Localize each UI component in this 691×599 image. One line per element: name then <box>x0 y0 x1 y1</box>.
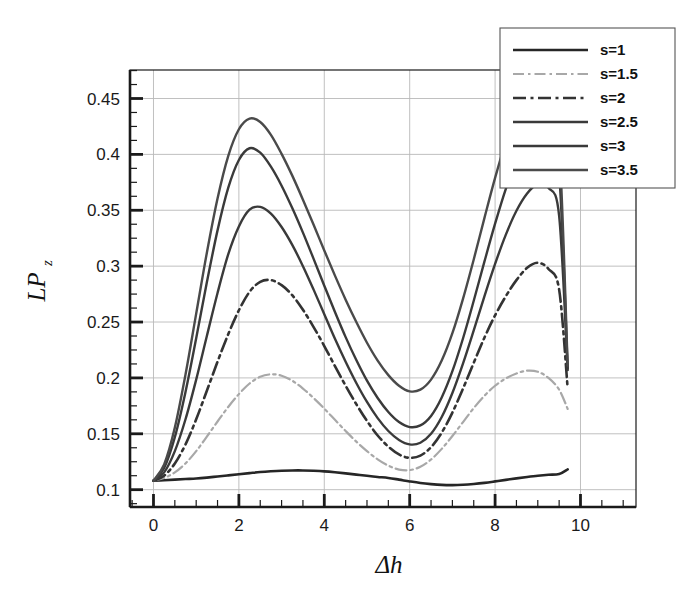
x-tick-label: 2 <box>234 516 243 535</box>
x-tick-label: 0 <box>149 516 158 535</box>
legend-box <box>500 28 675 188</box>
x-axis-title: Δh <box>374 551 402 578</box>
svg-text:z: z <box>39 260 55 267</box>
y-tick-label: 0.3 <box>96 257 120 276</box>
legend-label-s2: s=2 <box>600 89 625 106</box>
y-tick-label: 0.25 <box>87 313 120 332</box>
x-tick-label: 10 <box>571 516 590 535</box>
chart-legend: s=1s=1.5s=2s=2.5s=3s=3.5 <box>500 28 675 188</box>
x-tick-label: 6 <box>405 516 414 535</box>
x-tick-label: 4 <box>320 516 329 535</box>
legend-label-s3: s=3 <box>600 137 625 154</box>
x-tick-label: 8 <box>490 516 499 535</box>
y-tick-label: 0.2 <box>96 369 120 388</box>
y-tick-label: 0.4 <box>96 145 120 164</box>
line-chart: 0246810 0.10.150.20.250.30.350.40.45 s=1… <box>0 0 691 599</box>
legend-label-s1: s=1 <box>600 41 625 58</box>
y-tick-label: 0.15 <box>87 425 120 444</box>
legend-label-s15: s=1.5 <box>600 65 638 82</box>
svg-text:Δh: Δh <box>374 551 402 578</box>
y-tick-label: 0.1 <box>96 481 120 500</box>
svg-text:LP: LP <box>23 272 50 302</box>
y-tick-label: 0.45 <box>87 90 120 109</box>
legend-label-s35: s=3.5 <box>600 161 638 178</box>
chart-figure: 0246810 0.10.150.20.250.30.350.40.45 s=1… <box>0 0 691 599</box>
legend-label-s25: s=2.5 <box>600 113 638 130</box>
y-tick-label: 0.35 <box>87 201 120 220</box>
